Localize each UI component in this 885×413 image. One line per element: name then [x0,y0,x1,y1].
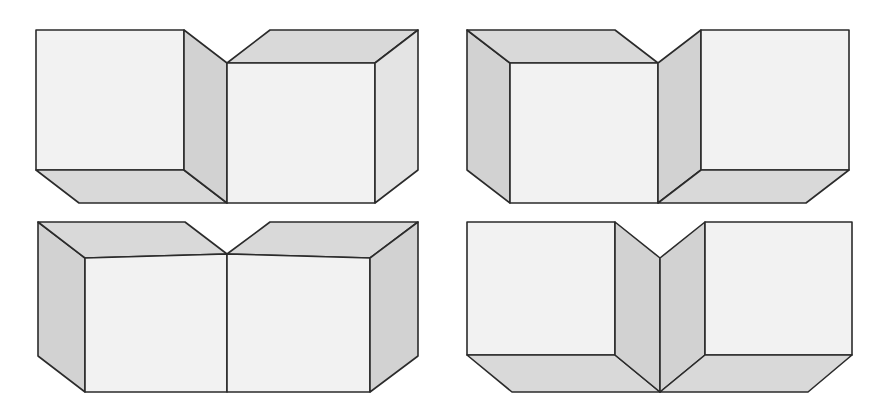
top-right-left-block-front-face [510,63,658,203]
bottom-right-left-block-front-face [467,222,615,355]
top-left-left-block-front-face [36,30,184,170]
bottom-left-left-block-front-face [85,254,227,392]
top-left-right-block-front-face [227,63,375,203]
block-pairs-figure [0,0,885,413]
bottom-right-right-block-front-face [705,222,852,355]
figure-root [0,0,885,413]
bottom-left-right-block-front-face [227,254,370,392]
top-right-right-block-front-face [701,30,849,170]
